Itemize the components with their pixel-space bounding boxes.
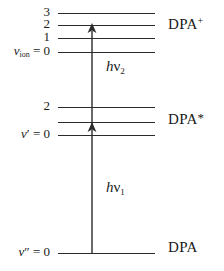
state-name-ion: DPA+ <box>168 16 203 32</box>
quantum-var-ion-subscript: ion <box>19 50 29 59</box>
quantum-eq-ground: = 0 <box>30 244 50 259</box>
level-label-ground-v0: v″ = 0 <box>0 245 50 258</box>
state-name-ion-base: DPA <box>168 16 198 32</box>
level-line-excited-v0 <box>58 135 155 136</box>
state-name-ground-base: DPA <box>168 239 198 255</box>
transition-arrow-hv2 <box>84 19 102 127</box>
quantum-eq-excited: = 0 <box>30 126 50 141</box>
photon-index-hv2: 2 <box>120 66 125 76</box>
photon-label-hv1: hν1 <box>106 180 125 197</box>
level-number-ion-v1: 1 <box>44 29 51 44</box>
photon-index-hv1: 1 <box>120 187 125 197</box>
state-name-ground: DPA <box>168 240 198 255</box>
photon-label-hv2: hν2 <box>106 59 125 76</box>
level-label-excited-v0: v′ = 0 <box>0 127 50 140</box>
level-line-excited-v2 <box>58 107 155 108</box>
state-name-excited: DPA* <box>168 111 204 127</box>
level-label-excited-v2: 2 <box>18 99 50 112</box>
level-line-ion-v1 <box>58 38 155 39</box>
level-line-ion-v2 <box>58 25 155 26</box>
transition-arrow-hv1 <box>84 118 102 258</box>
level-line-ion-v0 <box>58 52 155 53</box>
level-label-ion-v1: 1 <box>18 30 50 43</box>
photon-h-hv2: h <box>106 58 114 74</box>
level-number-excited-v2: 2 <box>44 98 51 113</box>
quantum-eq-ion: = 0 <box>30 43 50 58</box>
level-line-ground-v0 <box>58 253 155 254</box>
energy-level-diagram: 3 2 1 vion = 0 DPA+ 2 v′ = 0 DPA* v″ = 0… <box>0 0 224 271</box>
state-name-ion-charge: + <box>198 15 204 26</box>
state-name-excited-star: * <box>198 110 205 125</box>
state-name-excited-base: DPA <box>168 111 198 127</box>
level-label-ion-v0: vion = 0 <box>0 44 50 59</box>
photon-h-hv1: h <box>106 179 114 195</box>
level-line-ion-v3 <box>58 13 155 14</box>
level-line-excited-v1 <box>58 122 155 123</box>
